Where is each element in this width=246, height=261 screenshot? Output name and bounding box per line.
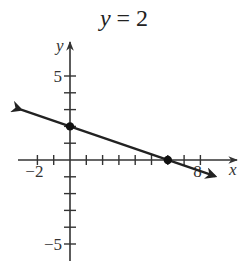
data-point <box>66 122 74 130</box>
y-axis-label: y <box>54 36 64 55</box>
chart-title: y = 2 <box>98 5 148 31</box>
line-segment <box>21 110 215 177</box>
y-tick-label: −5 <box>44 235 62 254</box>
y-tick-label: 5 <box>54 67 63 86</box>
x-tick-label: −2 <box>25 162 43 181</box>
chart: y = 2 −285−5 x y <box>0 0 246 261</box>
data-point <box>164 156 172 164</box>
plot-line <box>21 110 215 177</box>
x-axis-label: x <box>228 160 237 179</box>
